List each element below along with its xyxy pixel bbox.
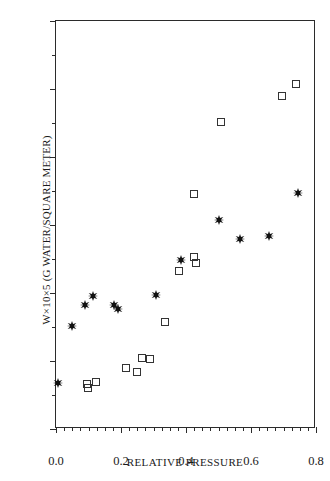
x-axis-tick xyxy=(162,427,163,431)
plot-frame: 01020304050600.00.20.40.60.8 xyxy=(55,20,315,428)
y-axis-tick xyxy=(52,191,56,192)
data-point-square xyxy=(133,368,141,376)
y-axis-tick xyxy=(52,55,56,56)
x-axis-tick xyxy=(227,427,228,431)
data-point-square xyxy=(84,384,92,392)
data-point-square xyxy=(190,190,198,198)
y-axis-tick xyxy=(52,327,56,328)
data-point-star xyxy=(113,303,124,314)
x-axis-tick xyxy=(121,427,122,433)
x-axis-tick xyxy=(202,427,203,431)
x-axis-tick xyxy=(292,427,293,431)
data-point-square xyxy=(292,80,300,88)
x-axis-tick xyxy=(89,427,90,431)
x-axis-tick xyxy=(64,427,65,431)
data-point-star xyxy=(263,230,274,241)
x-axis-tick xyxy=(235,427,236,431)
x-axis-tick xyxy=(154,427,155,431)
x-axis-tick xyxy=(284,427,285,431)
data-point-star xyxy=(52,377,63,388)
data-point-star xyxy=(176,255,187,266)
x-axis-tick xyxy=(97,427,98,431)
data-point-square xyxy=(146,355,154,363)
x-axis-tick xyxy=(137,427,138,431)
x-axis-tick xyxy=(186,427,187,433)
x-axis-tick xyxy=(145,427,146,431)
x-axis-tick xyxy=(56,427,57,433)
x-axis-tick xyxy=(72,427,73,431)
scatter-plot-figure: 01020304050600.00.20.40.60.8 RELATIVE PR… xyxy=(0,0,330,481)
y-axis-tick xyxy=(52,123,56,124)
data-point-square xyxy=(278,92,286,100)
x-axis-title: RELATIVE PRESSURE xyxy=(55,456,315,468)
plot-data-area xyxy=(56,21,314,427)
x-axis-tick xyxy=(243,427,244,431)
y-axis-tick xyxy=(50,21,56,22)
data-point-star xyxy=(66,321,77,332)
y-axis-tick xyxy=(52,395,56,396)
data-point-square xyxy=(217,118,225,126)
x-axis-tick xyxy=(300,427,301,431)
x-axis-tick xyxy=(267,427,268,431)
x-axis-tick xyxy=(170,427,171,431)
x-axis-tick xyxy=(275,427,276,431)
x-axis-tick xyxy=(113,427,114,431)
data-point-star xyxy=(88,291,99,302)
data-point-square xyxy=(161,318,169,326)
x-axis-tick xyxy=(194,427,195,431)
data-point-square xyxy=(192,259,200,267)
y-axis-title: W×10×5 (G WATER/SQUARE METER) xyxy=(40,80,52,380)
data-point-star xyxy=(213,214,224,225)
x-axis-tick xyxy=(308,427,309,431)
x-axis-tick xyxy=(80,427,81,431)
x-axis-tick xyxy=(210,427,211,431)
data-point-square xyxy=(175,267,183,275)
x-axis-tick xyxy=(129,427,130,431)
x-axis-tick xyxy=(178,427,179,431)
data-point-square xyxy=(92,378,100,386)
data-point-star xyxy=(151,290,162,301)
data-point-square xyxy=(122,364,130,372)
data-point-star xyxy=(293,188,304,199)
x-axis-tick xyxy=(251,427,252,433)
x-axis-tick xyxy=(259,427,260,431)
y-axis-tick xyxy=(52,259,56,260)
data-point-star xyxy=(234,234,245,245)
x-axis-tick xyxy=(316,427,317,433)
x-axis-tick xyxy=(105,427,106,431)
x-axis-tick xyxy=(219,427,220,431)
